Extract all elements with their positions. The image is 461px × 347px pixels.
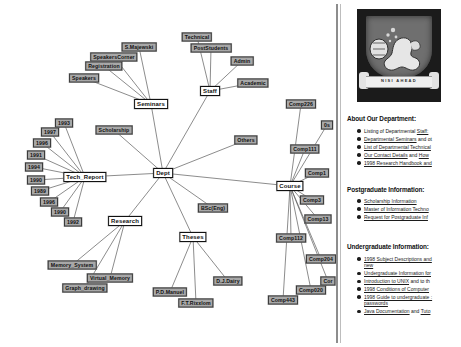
hyperlink[interactable]: Scholarship Information [364,198,417,204]
graph-node-smajewski[interactable]: S.Majewski [122,43,157,52]
static-text: and [408,152,419,158]
link-list-item[interactable]: Departmental Seminars and ot [357,136,461,142]
graph-node-y1992[interactable]: 1992 [64,218,82,227]
graph-node-graph_drawing[interactable]: Graph_drawing [62,284,107,293]
bullet-icon [357,280,361,284]
pane-divider-shadow [340,4,341,343]
department-web-page-pane[interactable]: NISI AHEAD About Our Department:Listing … [343,0,461,347]
hyperlink[interactable]: 1998 Research Handbook and [364,160,432,166]
hyperlink[interactable]: passwords [364,300,461,306]
graph-node-comp204[interactable]: Comp204 [306,255,336,264]
bullet-icon [357,295,361,299]
graph-node-ftrixxlom[interactable]: F.T.Rixxlom [178,299,213,308]
graph-node-staff[interactable]: Staff [200,86,220,96]
graph-node-comp112[interactable]: Comp112 [276,234,306,243]
graph-node-speakerscorner[interactable]: SpeakersCorner [90,53,137,62]
link-list-item[interactable]: 1998 Research Handbook and [357,160,461,166]
graph-node-comp443[interactable]: Comp443 [268,296,298,305]
graph-edge [125,173,163,221]
graph-node-y1990a[interactable]: 1990 [27,176,45,185]
link-list-item[interactable]: Introduction to UNIX and to th [357,278,461,284]
graph-node-course[interactable]: Course [276,181,303,191]
graph-node-research[interactable]: Research [108,216,142,226]
graph-edge [110,221,125,278]
static-text: and [410,308,421,314]
graph-node-comp3[interactable]: Comp3 [300,196,324,205]
graph-node-comp1[interactable]: Comp1 [305,169,329,178]
bullet-icon [357,137,361,141]
hyperlink[interactable]: 1998 Guide to undergraduate : [364,294,432,300]
graph-node-registration[interactable]: Registration [85,62,122,71]
section-link-list-2: 1998 Subject Descriptions andnewUndergra… [357,256,461,316]
graph-node-y1993[interactable]: 1993 [55,119,73,128]
graph-node-comp13[interactable]: Comp13 [304,215,331,224]
graph-node-y1996b[interactable]: 1996 [40,198,58,207]
link-list-item[interactable]: Scholarship Information [357,198,461,204]
graph-node-y1994[interactable]: 1994 [25,163,43,172]
graph-node-djdairy[interactable]: D.J.Dairy [213,277,242,286]
bullet-icon [357,287,361,291]
static-text: and ot [417,136,432,142]
graph-node-pdmanuel[interactable]: P.D.Manuel [153,288,187,297]
hyperlink[interactable]: Our Contact Details [364,152,408,158]
link-list-item[interactable]: Our Contact Details and How [357,152,461,158]
graph-node-technical[interactable]: Technical [182,33,212,42]
graph-node-poststudents[interactable]: PostStudents [191,44,232,53]
hyperlink[interactable]: List of Departmental Technical [364,144,431,150]
section-heading-1: Postgraduate Information: [347,186,424,193]
link-list-item[interactable]: 1998 Conditions of Computer [357,286,461,292]
graph-node-cor[interactable]: Cor [320,277,335,286]
graph-node-memory_system[interactable]: Memory_System [48,261,97,270]
graph-node-comp0x[interactable]: 0s [321,121,333,130]
graph-visualization-pane[interactable]: DeptSeminarsStaffTech_ReportCourseResear… [0,0,337,347]
graph-node-bsceng[interactable]: BSc(Eng) [198,204,228,213]
graph-node-admin[interactable]: Admin [231,57,254,66]
static-text: and to th [409,278,430,284]
graph-edge [290,186,291,238]
graph-node-seminars[interactable]: Seminars [134,99,168,109]
graph-node-y1989[interactable]: 1989 [31,187,49,196]
link-list-item[interactable]: List of Departmental Technical [357,144,461,150]
link-list-item[interactable]: 1998 Subject Descriptions andnew [357,256,461,269]
link-list-item[interactable]: Java Documentation and Tuto [357,308,461,314]
hyperlink[interactable]: Introduction to UNIX [364,278,409,284]
hyperlink[interactable]: Undergraduate Information for [364,270,431,276]
graph-edge [210,48,211,91]
link-list-item[interactable]: Listing of Departmental Staff: [357,128,461,134]
bullet-icon [357,153,361,157]
graph-node-comp226[interactable]: Comp226 [286,100,316,109]
graph-node-tech_report[interactable]: Tech_Report [63,172,106,182]
link-list-item[interactable]: 1998 Guide to undergraduate :passwords [357,294,461,307]
graph-node-scholarship[interactable]: Scholarship [96,126,133,135]
graph-node-y1991[interactable]: 1991 [27,151,45,160]
hyperlink[interactable]: Request for Postgraduate Inf [364,214,428,220]
graph-node-virtual_memory[interactable]: Virtual_Memory [87,274,133,283]
graph-node-y1990b[interactable]: 1990 [51,208,69,217]
graph-node-theses[interactable]: Theses [179,232,206,242]
graph-node-speakers[interactable]: Speakers [69,74,99,83]
hyperlink[interactable]: Master of Information Techno [364,206,429,212]
link-list-item[interactable]: Master of Information Techno [357,206,461,212]
hyperlink[interactable]: new [364,262,461,268]
graph-edge [151,104,163,173]
hyperlink[interactable]: Departmental Seminars [364,136,417,142]
hyperlink[interactable]: How [419,152,429,158]
graph-edge [72,221,125,265]
graph-node-others[interactable]: Others [234,136,257,145]
link-list-item[interactable]: Request for Postgraduate Inf [357,214,461,220]
bullet-icon [357,207,361,211]
link-list-item[interactable]: Undergraduate Information for [357,270,461,276]
graph-node-y1996a[interactable]: 1996 [33,139,51,148]
graph-node-comp020[interactable]: Comp020 [296,286,326,295]
section-link-list-0: Listing of Departmental Staff:Department… [357,128,461,168]
hyperlink[interactable]: 1998 Subject Descriptions and [364,256,432,262]
graph-node-academic[interactable]: Academic [237,79,268,88]
graph-node-dept[interactable]: Dept [153,168,173,178]
hyperlink[interactable]: Staff: [417,128,429,134]
graph-node-y1997[interactable]: 1997 [41,128,59,137]
hyperlink[interactable]: Java Documentation [364,308,410,314]
graph-node-comp111[interactable]: Comp111 [290,145,319,154]
hyperlink[interactable]: Tuto [421,308,431,314]
graph-edge [193,237,196,303]
hyperlink[interactable]: 1998 Conditions of Computer [364,286,429,292]
